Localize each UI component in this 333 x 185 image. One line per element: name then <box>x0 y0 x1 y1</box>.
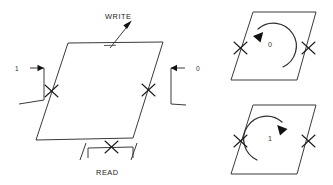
main-core-parallelogram <box>36 42 163 140</box>
figure-canvas: WRITE 1 0 <box>0 0 333 185</box>
right-input-arrowhead <box>171 65 177 71</box>
read-wire-tail-right <box>131 143 137 160</box>
state-core-zero-arc <box>258 23 296 67</box>
left-drive-wire <box>19 68 44 104</box>
state-core-zero-label: 0 <box>268 40 272 49</box>
state-core-zero-right-crossing <box>302 42 315 54</box>
state-core-zero-group: 0 <box>231 12 316 80</box>
right-input-label: 0 <box>196 65 200 72</box>
right-wire-crossing <box>142 84 155 96</box>
write-label: WRITE <box>105 12 132 21</box>
state-core-one-right-crossing <box>302 135 315 147</box>
core-memory-figure: WRITE 1 0 <box>0 0 333 185</box>
write-arrowhead <box>123 21 132 29</box>
state-core-one-label: 1 <box>268 134 272 143</box>
state-core-zero-parallelogram <box>231 12 316 80</box>
left-wire-crossing <box>45 85 58 97</box>
left-input-label: 1 <box>15 65 19 72</box>
read-wire-tail-left <box>80 143 86 160</box>
left-input-arrowhead <box>38 65 44 71</box>
state-core-one-group: 1 <box>231 105 316 174</box>
read-label: READ <box>96 168 119 177</box>
right-drive-wire <box>171 68 186 105</box>
main-core-group: WRITE 1 0 <box>15 12 200 177</box>
state-core-zero-arrowhead <box>253 32 263 43</box>
state-core-one-arc <box>244 116 282 160</box>
state-core-one-arrowhead <box>277 125 287 136</box>
